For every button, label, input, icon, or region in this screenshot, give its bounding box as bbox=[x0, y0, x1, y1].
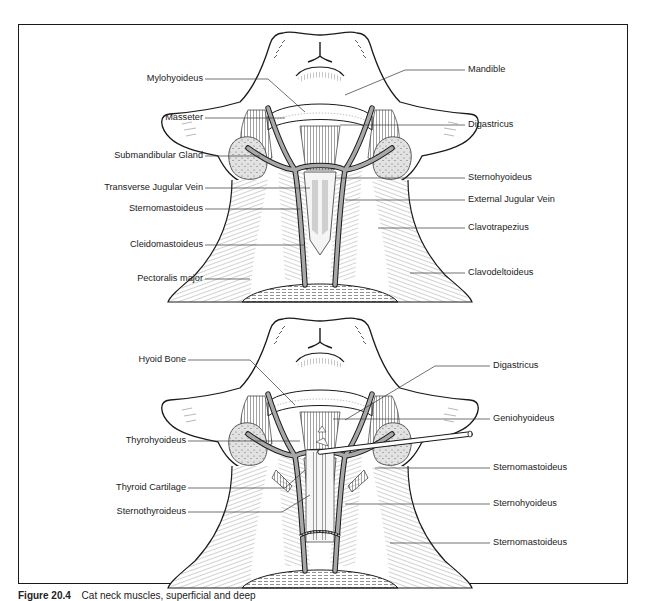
label-mylohyoideus: Mylohyoideus bbox=[147, 73, 203, 84]
label-external-jugular-vein: External Jugular Vein bbox=[468, 194, 555, 205]
label-transverse-jugular-vein: Transverse Jugular Vein bbox=[104, 182, 203, 193]
caption-text: Cat neck muscles, superficial and deep bbox=[82, 590, 256, 601]
figure-caption: Figure 20.4 Cat neck muscles, superficia… bbox=[18, 590, 256, 601]
label-hyoid-bone: Hyoid Bone bbox=[139, 354, 187, 365]
label-digastricus-bottom: Digastricus bbox=[493, 360, 538, 371]
label-sternothyroideus: Sternothyroideus bbox=[117, 506, 186, 517]
label-sternomastoideus-top: Sternomastoideus bbox=[129, 203, 203, 214]
label-cleidomastoideus: Cleidomastoideus bbox=[130, 239, 203, 250]
label-clavotrapezius: Clavotrapezius bbox=[468, 222, 529, 233]
label-sternohyoideus-bottom: Sternohyoideus bbox=[493, 498, 557, 509]
label-sternohyoideus-top: Sternohyoideus bbox=[468, 172, 532, 183]
label-mandible: Mandible bbox=[468, 64, 505, 75]
label-thyrohyoideus: Thyrohyoideus bbox=[126, 435, 186, 446]
label-digastricus-top: Digastricus bbox=[468, 119, 513, 130]
label-masseter: Masseter bbox=[165, 112, 203, 123]
label-submandibular-gland: Submandibular Gland bbox=[114, 150, 203, 161]
label-clavodeltoideus: Clavodeltoideus bbox=[468, 267, 533, 278]
label-thyroid-cartilage: Thyroid Cartilage bbox=[116, 482, 186, 493]
label-pectoralis-major: Pectoralis major bbox=[137, 273, 203, 284]
label-geniohyoideus: Geniohyoideus bbox=[493, 413, 554, 424]
label-sternomastoideus-bottom-2: Sternomastoideus bbox=[493, 537, 567, 548]
caption-number: Figure 20.4 bbox=[18, 590, 71, 601]
label-sternomastoideus-bottom-1: Sternomastoideus bbox=[493, 462, 567, 473]
superficial-neck-drawing bbox=[162, 32, 479, 302]
